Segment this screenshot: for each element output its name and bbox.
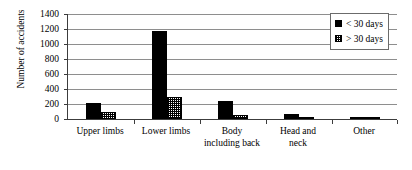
bar-group (68, 14, 134, 120)
bar-group (266, 14, 332, 120)
x-tick-label-line: Other (331, 126, 397, 138)
legend-label: < 30 days (346, 19, 383, 29)
bar-group (134, 14, 200, 120)
bar-lt30 (152, 31, 167, 119)
x-tick-mark (332, 120, 333, 124)
x-tick-label: Other (331, 126, 397, 138)
x-tick-label-line: neck (265, 138, 331, 150)
bar-lt30 (86, 103, 101, 119)
x-tick-mark (397, 120, 398, 124)
y-tick-label: 1200 (40, 24, 59, 34)
y-tick-label: 800 (45, 54, 59, 64)
legend-swatch-icon (335, 20, 342, 27)
x-axis-tick-labels: Upper limbsLower limbsBodyincluding back… (67, 126, 397, 166)
x-tick-mark (134, 120, 135, 124)
y-axis-tick-labels: 1400120010008006004002000 (22, 9, 62, 121)
bar-gt30 (233, 115, 248, 119)
x-tick-label-line: Lower limbs (133, 126, 199, 138)
y-tick-label: 200 (45, 99, 59, 109)
x-tick-label-line: Head and (265, 126, 331, 138)
bar-lt30 (218, 101, 233, 119)
x-tick-mark (266, 120, 267, 124)
y-tick-label: 600 (45, 69, 59, 79)
bar-lt30 (284, 114, 299, 119)
y-tick-label: 0 (54, 114, 59, 124)
y-tick-label: 1000 (40, 39, 59, 49)
bar-lt30 (350, 117, 365, 119)
bar-gt30 (167, 97, 182, 119)
bar-gt30 (365, 117, 380, 119)
bar-gt30 (101, 112, 116, 119)
bar-gt30 (299, 117, 314, 119)
y-tick-label: 1400 (40, 9, 59, 19)
x-tick-label: Head andneck (265, 126, 331, 149)
legend-item: < 30 days (335, 16, 383, 31)
legend: < 30 days> 30 days (330, 13, 389, 50)
legend-swatch-icon (335, 35, 342, 42)
legend-item: > 30 days (335, 31, 383, 46)
y-tick-label: 400 (45, 84, 59, 94)
legend-label: > 30 days (346, 34, 383, 44)
bar-group (200, 14, 266, 120)
x-tick-label-line: including back (199, 138, 265, 150)
x-tick-label: Upper limbs (67, 126, 133, 138)
x-tick-label: Bodyincluding back (199, 126, 265, 149)
x-tick-mark (200, 120, 201, 124)
x-tick-label-line: Body (199, 126, 265, 138)
x-tick-label-line: Upper limbs (67, 126, 133, 138)
x-tick-label: Lower limbs (133, 126, 199, 138)
bar-chart: Number of accidents 14001200100080060040… (0, 0, 412, 170)
